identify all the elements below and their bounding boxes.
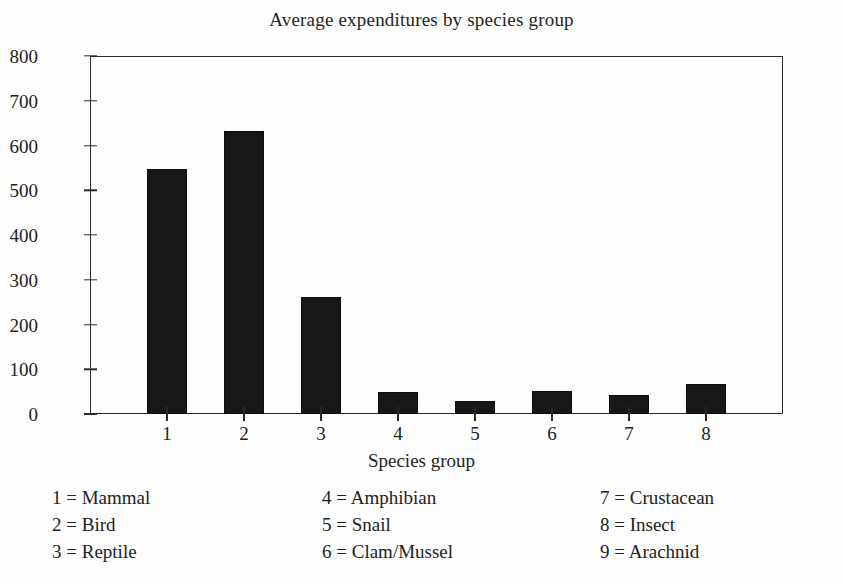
x-tick-label: 2 xyxy=(224,424,264,444)
bar xyxy=(301,297,341,414)
bar xyxy=(147,169,187,414)
chart-legend: 1 = Mammal2 = Bird3 = Reptile4 = Amphibi… xyxy=(0,484,843,574)
plot-frame xyxy=(90,56,783,414)
x-axis-title: Species group xyxy=(0,450,843,472)
x-tick-mark xyxy=(705,407,706,421)
y-tick-label: 400 xyxy=(0,226,38,245)
x-tick-label: 3 xyxy=(301,424,341,444)
legend-entry: 8 = Insect xyxy=(600,511,714,538)
x-tick-label: 1 xyxy=(147,424,187,444)
legend-entry: 9 = Arachnid xyxy=(600,538,714,565)
x-tick-mark xyxy=(397,407,398,421)
y-tick-label: 800 xyxy=(0,47,38,66)
legend-column: 1 = Mammal2 = Bird3 = Reptile xyxy=(52,484,150,565)
x-tick-mark xyxy=(551,407,552,421)
x-tick-mark xyxy=(474,407,475,421)
legend-entry: 3 = Reptile xyxy=(52,538,150,565)
x-tick-label: 6 xyxy=(532,424,572,444)
legend-entry: 5 = Snail xyxy=(322,511,453,538)
legend-entry: 4 = Amphibian xyxy=(322,484,453,511)
y-tick-label: 600 xyxy=(0,136,38,155)
y-tick-label: 100 xyxy=(0,360,38,379)
x-tick-label: 7 xyxy=(609,424,649,444)
x-tick-mark xyxy=(243,407,244,421)
x-tick-mark xyxy=(320,407,321,421)
y-tick-label: 500 xyxy=(0,181,38,200)
y-tick-label: 200 xyxy=(0,315,38,334)
legend-column: 4 = Amphibian5 = Snail6 = Clam/Mussel xyxy=(322,484,453,565)
y-tick-label: 700 xyxy=(0,91,38,110)
y-axis: 0100200300400500600700800 xyxy=(0,0,90,414)
chart-page: Average expenditures by species group 01… xyxy=(0,0,843,586)
legend-entry: 1 = Mammal xyxy=(52,484,150,511)
x-axis-origin-tick xyxy=(84,413,97,414)
legend-entry: 7 = Crustacean xyxy=(600,484,714,511)
x-tick-label: 4 xyxy=(378,424,418,444)
legend-entry: 6 = Clam/Mussel xyxy=(322,538,453,565)
y-tick-label: 300 xyxy=(0,270,38,289)
y-tick-label: 0 xyxy=(0,405,38,424)
x-tick-label: 5 xyxy=(455,424,495,444)
chart-title: Average expenditures by species group xyxy=(0,9,843,31)
bar xyxy=(224,131,264,414)
legend-entry: 2 = Bird xyxy=(52,511,150,538)
x-tick-mark xyxy=(628,407,629,421)
legend-column: 7 = Crustacean8 = Insect9 = Arachnid xyxy=(600,484,714,565)
x-tick-label: 8 xyxy=(686,424,726,444)
x-tick-mark xyxy=(166,407,167,421)
